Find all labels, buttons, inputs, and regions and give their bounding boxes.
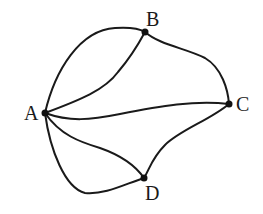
label-a: A — [24, 102, 39, 124]
node-a — [42, 110, 49, 117]
node-d — [141, 175, 148, 182]
edge-c-d — [144, 104, 229, 178]
edge-a-d-lower — [45, 113, 144, 193]
edge-b-c — [145, 32, 229, 104]
label-c: C — [236, 93, 249, 115]
label-d: D — [145, 182, 159, 204]
label-b: B — [146, 8, 159, 30]
node-c — [226, 101, 233, 108]
edge-a-c — [45, 103, 229, 119]
edge-a-b-outer — [45, 28, 145, 113]
graph-diagram: A B C D — [0, 0, 263, 214]
